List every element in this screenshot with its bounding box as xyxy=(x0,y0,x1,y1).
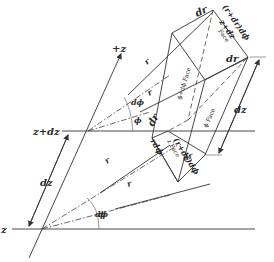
phi-face-label: ϕ Face xyxy=(202,107,218,129)
z-plus-dz-level-label: z+dz xyxy=(32,126,60,137)
hidden-vertical-edge xyxy=(188,10,213,120)
hidden-bottom-edge xyxy=(168,120,188,131)
dr-front-label: dr xyxy=(145,111,161,128)
lower-r-label-2: r xyxy=(126,178,134,189)
lower-phi-label: ϕ xyxy=(98,209,106,219)
upper-r-label-1: r xyxy=(142,56,152,67)
upper-phi-label: ϕ xyxy=(134,115,142,125)
cylindrical-volume-element-diagram: +z z z+dz dz r r dϕ ϕ r r dϕ ϕ xyxy=(0,0,274,262)
z-axis-label: +z xyxy=(112,43,126,54)
phi-plus-dphi-face-label: ϕ+dϕ Face xyxy=(175,66,192,101)
z-level-label: z xyxy=(0,224,7,235)
dr-right-label: dr xyxy=(226,53,239,64)
lower-radius-1 xyxy=(42,145,178,229)
upper-radius-1 xyxy=(128,12,213,95)
upper-r-label-2: r xyxy=(146,87,155,98)
lower-r-label-1: r xyxy=(102,155,112,166)
left-dz-label: dz xyxy=(40,177,53,188)
dr-top-label: dr xyxy=(193,3,209,18)
right-dz-label: dz xyxy=(234,104,247,115)
z-axis-arrow xyxy=(29,54,121,258)
upper-dphi-label: dϕ xyxy=(131,97,145,107)
